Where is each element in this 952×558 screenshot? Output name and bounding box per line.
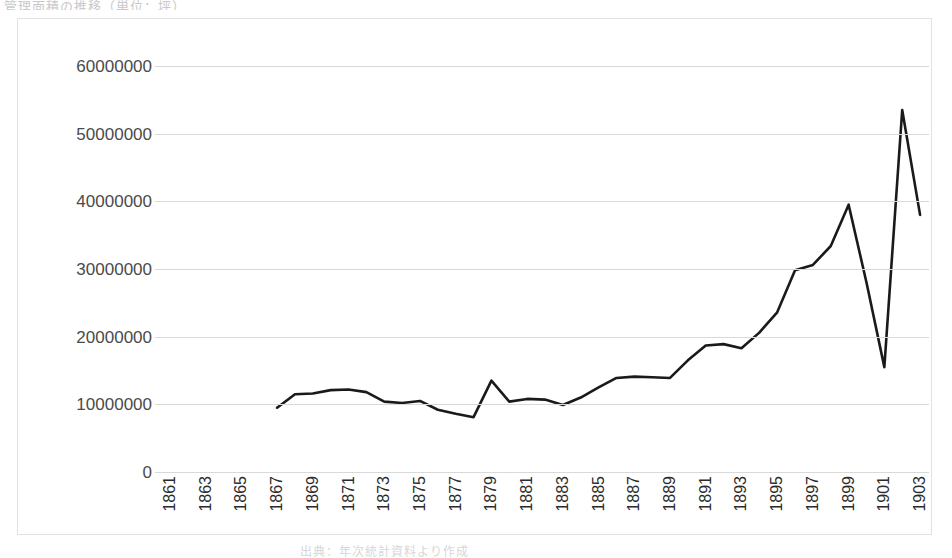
y-tick-label: 50000000	[76, 125, 152, 142]
x-tick-label: 1879	[483, 476, 499, 512]
y-tick-mark	[155, 337, 161, 338]
y-gridline: 0	[161, 472, 929, 473]
x-tick-label: 1865	[233, 476, 249, 512]
x-tick-label: 1897	[805, 476, 821, 512]
x-tick-label: 1861	[162, 476, 178, 512]
x-tick-label: 1903	[912, 476, 928, 512]
x-tick-label: 1887	[626, 476, 642, 512]
x-tick-label: 1889	[662, 476, 678, 512]
top-cropped-caption: 管理面積の推移（単位：坪）	[4, 0, 952, 10]
x-tick-label: 1875	[412, 476, 428, 512]
x-tick-label: 1885	[591, 476, 607, 512]
x-tick-label: 1901	[876, 476, 892, 512]
y-gridline: 30000000	[161, 269, 929, 270]
y-gridline: 60000000	[161, 66, 929, 67]
x-tick-label: 1881	[519, 476, 535, 512]
y-tick-mark	[155, 269, 161, 270]
y-tick-label: 60000000	[76, 58, 152, 75]
y-tick-mark	[155, 404, 161, 405]
x-tick-label: 1895	[769, 476, 785, 512]
x-tick-label: 1899	[841, 476, 857, 512]
y-tick-label: 30000000	[76, 261, 152, 278]
y-tick-mark	[155, 472, 161, 473]
x-tick-label: 1867	[269, 476, 285, 512]
x-tick-label: 1877	[448, 476, 464, 512]
chart-page: 管理面積の推移（単位：坪） 60000000500000004000000030…	[0, 0, 952, 558]
y-gridline: 10000000	[161, 404, 929, 405]
x-tick-label: 1893	[733, 476, 749, 512]
x-tick-label: 1873	[376, 476, 392, 512]
plot-area: 6000000050000000400000003000000020000000…	[161, 66, 929, 472]
y-tick-label: 40000000	[76, 193, 152, 210]
y-tick-mark	[155, 134, 161, 135]
x-tick-label: 1883	[555, 476, 571, 512]
bottom-cropped-caption: 出典：年次統計資料より作成	[300, 542, 952, 558]
x-tick-label: 1869	[305, 476, 321, 512]
y-gridline: 40000000	[161, 201, 929, 202]
y-tick-label: 10000000	[76, 396, 152, 413]
chart-frame: 6000000050000000400000003000000020000000…	[17, 18, 932, 535]
y-tick-label: 20000000	[76, 328, 152, 345]
x-tick-label: 1863	[198, 476, 214, 512]
x-tick-label: 1891	[698, 476, 714, 512]
y-gridline: 20000000	[161, 337, 929, 338]
y-tick-mark	[155, 66, 161, 67]
x-tick-label: 1871	[341, 476, 357, 512]
y-tick-label: 0	[143, 464, 152, 481]
y-tick-mark	[155, 201, 161, 202]
x-axis-tick-labels: 1861186318651867186918711873187518771879…	[161, 476, 929, 548]
y-gridline: 50000000	[161, 134, 929, 135]
